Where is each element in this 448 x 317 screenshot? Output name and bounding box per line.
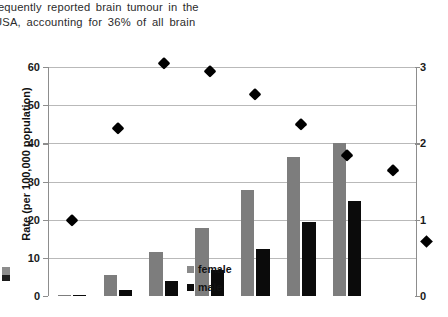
bar-female bbox=[333, 143, 346, 296]
bar-female bbox=[287, 157, 300, 296]
y-axis-right-tick-label: 1 bbox=[420, 215, 442, 225]
bar-female bbox=[149, 252, 162, 296]
legend-item-female: female bbox=[187, 262, 232, 277]
bar-male bbox=[348, 201, 361, 296]
y-axis-right-tick-mark bbox=[415, 220, 420, 221]
bar-female bbox=[241, 190, 254, 296]
bar-male bbox=[302, 222, 315, 296]
y-axis-left-tick-mark bbox=[43, 182, 48, 183]
y-axis-left-tick-mark bbox=[43, 67, 48, 68]
gridline bbox=[49, 182, 416, 183]
ratio-marker bbox=[295, 118, 307, 130]
bar-male bbox=[73, 295, 86, 296]
plot-area: female male bbox=[48, 67, 417, 296]
legend-label-female: female bbox=[198, 264, 232, 275]
y-axis-left-tick-label: 40 bbox=[6, 138, 40, 148]
chart-figure: Rate (per 100,000 population) Ratio of r… bbox=[0, 40, 448, 317]
y-axis-left-tick-mark bbox=[43, 105, 48, 106]
y-axis-left-tick-mark bbox=[43, 220, 48, 221]
gridline bbox=[49, 143, 416, 144]
bar-male bbox=[256, 249, 269, 296]
gridline bbox=[49, 105, 416, 106]
legend-item-male: male bbox=[187, 280, 232, 295]
y-axis-right-tick-label: 0 bbox=[420, 291, 442, 301]
y-axis-left-tick-mark bbox=[43, 143, 48, 144]
bar-female bbox=[104, 275, 117, 296]
bar-male bbox=[119, 290, 132, 296]
ratio-marker bbox=[249, 88, 261, 100]
y-axis-left-tick-mark bbox=[43, 296, 48, 297]
y-axis-right-tick-label: 3 bbox=[420, 62, 442, 72]
gridline bbox=[49, 67, 416, 68]
y-axis-left-tick-label: 30 bbox=[6, 177, 40, 187]
y-axis-left-tick-mark bbox=[43, 258, 48, 259]
y-axis-left-tick-label: 50 bbox=[6, 100, 40, 110]
y-axis-right-tick-mark bbox=[415, 296, 420, 297]
ratio-marker bbox=[387, 164, 399, 176]
y-axis-left-tick-label: 10 bbox=[6, 253, 40, 263]
y-axis-left-tick-label: 0 bbox=[6, 291, 40, 301]
y-axis-left-tick-label: 20 bbox=[6, 215, 40, 225]
y-axis-right-tick-label: 2 bbox=[420, 138, 442, 148]
chart-legend: female male bbox=[187, 262, 232, 298]
ratio-marker bbox=[66, 214, 78, 226]
bar-male bbox=[165, 281, 178, 296]
bar-female bbox=[58, 295, 71, 296]
legend-swatch-male-icon bbox=[187, 284, 194, 291]
y-axis-left-tick-label: 60 bbox=[6, 62, 40, 72]
ratio-diamond-axis-swatch-icon bbox=[420, 235, 433, 248]
legend-label-male: male bbox=[198, 282, 222, 293]
body-text-line-2: USA, accounting for 36% of all brain bbox=[0, 15, 304, 30]
y-axis-right-tick-mark bbox=[415, 143, 420, 144]
female-bar-axis-swatch-icon bbox=[2, 267, 10, 281]
body-text-line-1: requently reported brain tumour in the bbox=[0, 0, 304, 15]
ratio-marker bbox=[112, 122, 124, 134]
y-axis-right-tick-mark bbox=[415, 67, 420, 68]
body-text: requently reported brain tumour in the U… bbox=[0, 0, 304, 30]
legend-swatch-female-icon bbox=[187, 266, 194, 273]
